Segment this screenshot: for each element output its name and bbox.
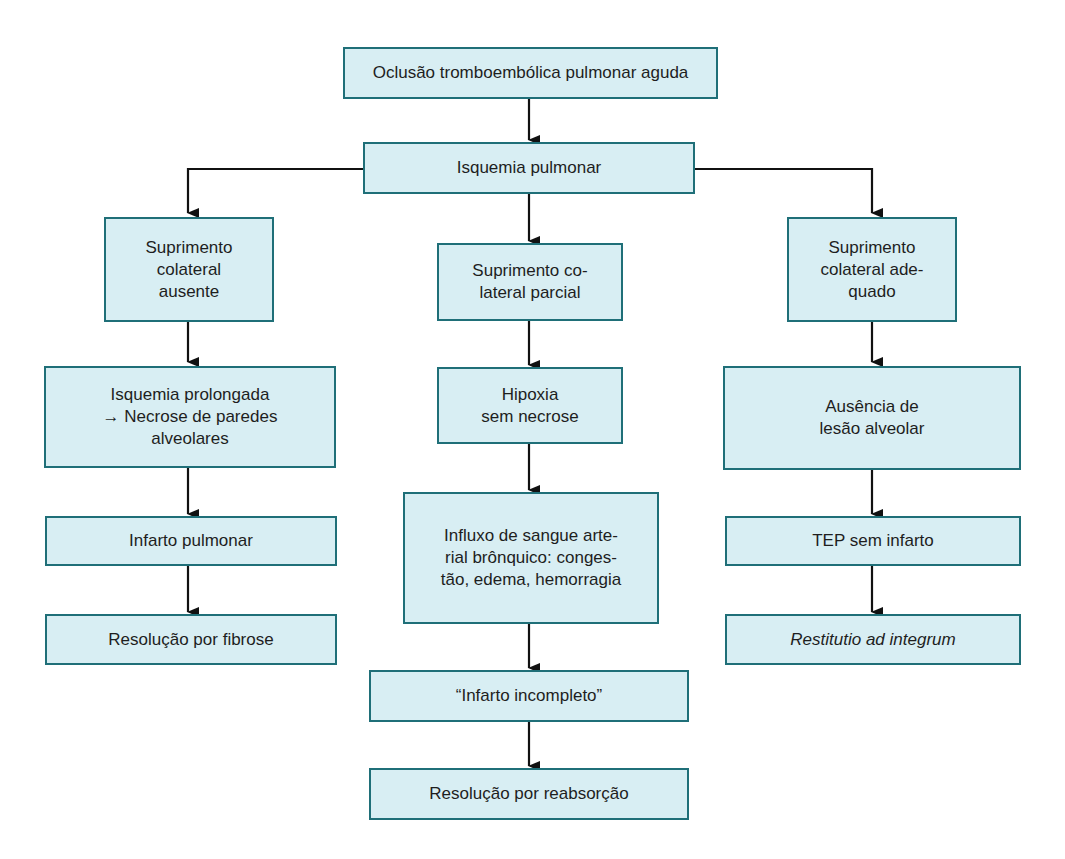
- node-partial-supply: Suprimento co- lateral parcial: [437, 243, 623, 321]
- node-label: Suprimento colateral ade- quado: [820, 237, 923, 303]
- node-label: Resolução por reabsorção: [429, 783, 628, 805]
- node-label: Restitutio ad integrum: [790, 629, 955, 651]
- arrow-isquemia-to-adequate: [695, 169, 872, 213]
- node-label: Isquemia pulmonar: [457, 157, 602, 179]
- node-incomplete-infarct: “Infarto incompleto”: [369, 670, 689, 722]
- node-label: Isquemia prolongada → Necrose de paredes…: [103, 384, 278, 450]
- node-label: Ausência de lesão alveolar: [820, 396, 925, 440]
- node-restitutio: Restitutio ad integrum: [725, 614, 1021, 665]
- node-bronchial-influx: Influxo de sangue arte- rial brônquico: …: [403, 492, 659, 624]
- node-label: “Infarto incompleto”: [456, 685, 602, 707]
- node-prolonged-ischemia: Isquemia prolongada → Necrose de paredes…: [44, 366, 336, 468]
- node-label: Infarto pulmonar: [129, 530, 253, 552]
- node-label: Influxo de sangue arte- rial brônquico: …: [441, 525, 622, 591]
- node-fibrosis-resolution: Resolução por fibrose: [45, 614, 337, 665]
- arrow-isquemia-to-absent: [188, 169, 363, 213]
- node-root: Oclusão tromboembólica pulmonar aguda: [343, 47, 718, 99]
- node-reabsorption-resolution: Resolução por reabsorção: [369, 768, 689, 820]
- node-label: Resolução por fibrose: [108, 629, 273, 651]
- node-absent-supply: Suprimento colateral ausente: [104, 217, 274, 322]
- node-adequate-supply: Suprimento colateral ade- quado: [787, 217, 957, 322]
- node-label: Oclusão tromboembólica pulmonar aguda: [373, 62, 689, 84]
- node-isquemia-pulmonar: Isquemia pulmonar: [363, 142, 695, 194]
- node-label: Suprimento colateral ausente: [146, 237, 233, 303]
- node-pulmonary-infarct: Infarto pulmonar: [45, 516, 337, 566]
- node-no-alveolar-lesion: Ausência de lesão alveolar: [723, 366, 1021, 470]
- node-label: TEP sem infarto: [812, 530, 934, 552]
- node-tep-no-infarct: TEP sem infarto: [725, 516, 1021, 566]
- node-label: Suprimento co- lateral parcial: [472, 260, 587, 304]
- node-label: Hipoxia sem necrose: [481, 384, 578, 428]
- node-hypoxia: Hipoxia sem necrose: [437, 367, 623, 444]
